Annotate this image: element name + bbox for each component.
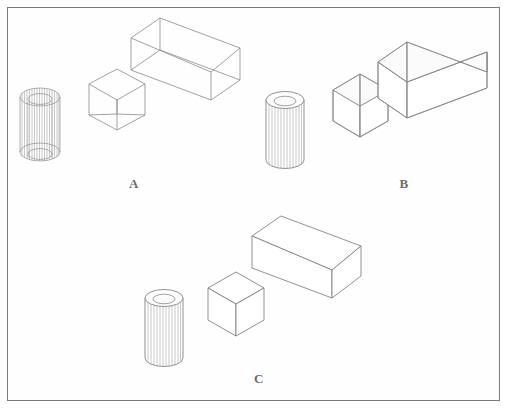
shapes-canvas: .ln { fill:none; stroke:#8a8a8a; stroke-… [0,0,508,410]
shape-c-cylinder [145,290,183,369]
group-label-b: B [389,176,419,192]
figure-root: .ln { fill:none; stroke:#8a8a8a; stroke-… [0,0,508,410]
group-label-c: C [244,371,274,387]
shape-c-box [252,216,361,298]
shape-b-box [378,42,487,118]
shape-c-cube [208,272,264,336]
shape-a-box [131,18,240,100]
shape-a-cube [89,69,145,130]
group-b-shapes [266,42,487,170]
shape-b-cylinder [266,92,304,171]
group-a-shapes [20,18,240,164]
group-label-a: A [119,176,149,192]
group-c-shapes [145,216,361,368]
shape-a-cylinder [20,86,60,164]
